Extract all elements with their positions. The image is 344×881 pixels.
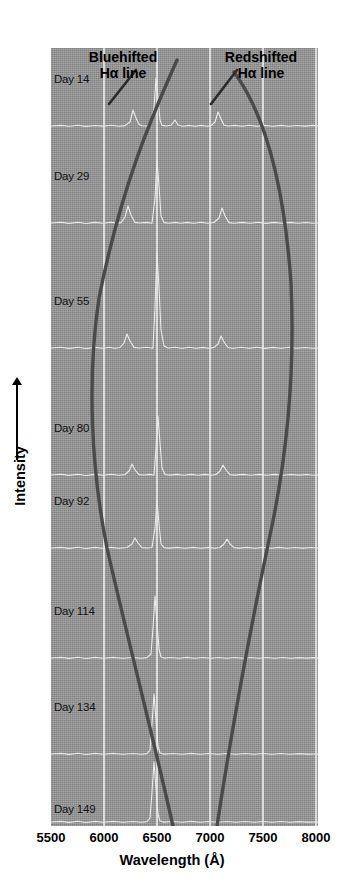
annotation-redshifted-line1: Redshifted (211, 50, 311, 66)
annotation-blueshifted-line2: Hα line (73, 66, 173, 82)
annotation-redshifted-line2: Hα line (211, 66, 311, 82)
xtick-7000: 7000 (196, 830, 225, 845)
day-label-114: Day 114 (54, 605, 95, 617)
x-axis-label: Wavelength (Å) (0, 852, 344, 868)
xtick-6000: 6000 (90, 830, 119, 845)
day-label-80: Day 80 (54, 422, 89, 434)
spectral-evolution-figure: Day 14 Day 29 Day 55 Day 80 Day 92 Day 1… (0, 0, 344, 881)
y-axis-label: Intensity (12, 406, 28, 546)
y-axis-group: Intensity (4, 390, 30, 590)
xtick-8000: 8000 (302, 830, 331, 845)
plot-area: Day 14 Day 29 Day 55 Day 80 Day 92 Day 1… (51, 48, 318, 826)
day-label-134: Day 134 (54, 701, 95, 713)
xtick-5500: 5500 (37, 830, 66, 845)
day-label-55: Day 55 (54, 295, 89, 307)
annotation-blueshifted: Bluehifted Hα line (73, 50, 173, 81)
day-label-149: Day 149 (54, 803, 95, 815)
annotation-blueshifted-line1: Bluehifted (73, 50, 173, 66)
xtick-7500: 7500 (249, 830, 278, 845)
day-label-92: Day 92 (54, 495, 89, 507)
xtick-6500: 6500 (143, 830, 172, 845)
annotation-redshifted: Redshifted Hα line (211, 50, 311, 81)
day-label-29: Day 29 (54, 170, 89, 182)
